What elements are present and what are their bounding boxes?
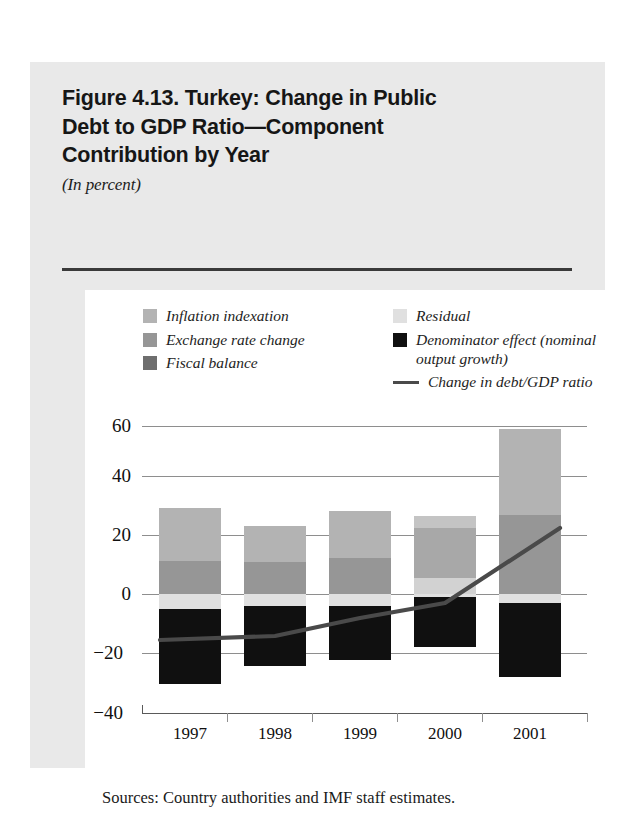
figure-title-block: Figure 4.13. Turkey: Change in Public De… [62,84,562,195]
x-tick-label-2001: 2001 [490,724,570,744]
bar-1997-fiscal-balance [159,570,221,594]
x-tick-label-2000: 2000 [405,724,485,744]
bar-1998-fiscal-balance [244,572,306,594]
bar-2001-inflation-indexation [499,429,561,515]
bar-1999-inflation-indexation [329,511,391,558]
bar-2000-residual-top [414,516,476,528]
figure-container: Figure 4.13. Turkey: Change in Public De… [30,62,605,768]
y-tick-label-neg20: −20 [77,642,123,664]
figure-title-line-2: Debt to GDP Ratio—Component [62,113,562,142]
bar-1999-denominator-effect [329,606,391,660]
bar-2001-fiscal-balance [499,586,561,594]
bar-2000-fiscal-balance [414,578,476,594]
bar-2001-residual [499,594,561,603]
bar-1999-residual [329,594,391,606]
figure-title-line-1: Figure 4.13. Turkey: Change in Public [62,84,562,113]
y-axis-line [142,705,143,714]
bar-1999-exchange-rate-change [329,558,391,573]
x-tick-2000 [482,713,483,722]
y-tick-label-60: 60 [85,415,131,437]
bar-1998-inflation-indexation [244,526,306,562]
bar-1998-denominator-effect [244,606,306,666]
gridline-60 [142,426,587,427]
x-tick-label-1998: 1998 [235,724,315,744]
x-tick-2001 [587,713,588,722]
source-note: Sources: Country authorities and IMF sta… [102,788,455,808]
bar-2000-inflation-indexation [414,528,476,564]
y-tick-label-40: 40 [85,465,131,487]
figure-subtitle: (In percent) [62,175,562,195]
bar-1997-residual [159,594,221,609]
bar-1998-exchange-rate-change [244,562,306,572]
plot-area: 60 40 20 0 −20 −40 [85,290,610,777]
x-tick-1997 [227,713,228,722]
x-tick-1998 [312,713,313,722]
chart-panel: Inflation indexation Exchange rate chang… [85,290,610,777]
x-tick-label-1999: 1999 [320,724,400,744]
figure-title-line-3: Contribution by Year [62,141,562,170]
bar-1997-denominator-effect [159,609,221,684]
bar-2000-denominator-effect [414,597,476,647]
bar-1998-residual [244,594,306,606]
y-tick-label-20: 20 [85,524,131,546]
bar-2001-exchange-rate-change [499,515,561,586]
x-tick-1999 [397,713,398,722]
x-tick-label-1997: 1997 [150,724,230,744]
bar-2001-denominator-effect [499,603,561,677]
y-tick-label-neg40: −40 [77,702,123,724]
bar-2000-exchange-rate-change [414,564,476,578]
bar-1999-fiscal-balance [329,573,391,594]
title-divider [62,268,572,271]
axis-baseline-neg40 [142,713,587,714]
bar-1997-exchange-rate-change [159,561,221,570]
bar-1997-inflation-indexation [159,508,221,561]
y-tick-label-0: 0 [85,583,131,605]
